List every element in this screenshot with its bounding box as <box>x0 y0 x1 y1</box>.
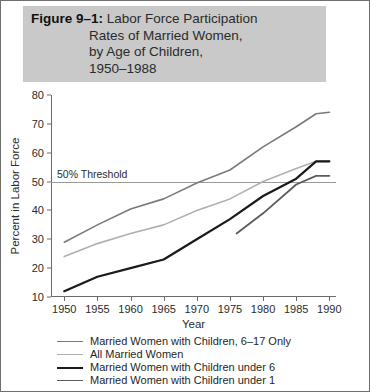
y-axis-label-text: Percent in Labor Force <box>9 138 21 255</box>
figure-title-line-4: 1950–1988 <box>31 61 318 78</box>
legend-color-swatch <box>57 380 83 381</box>
x-axis-label: Year <box>51 318 336 330</box>
x-tick-label: 1955 <box>85 303 109 315</box>
legend-label: All Married Women <box>90 348 183 361</box>
figure-title-line-2: Rates of Married Women, <box>31 28 318 45</box>
legend-item: Married Women with Children, 6–17 Only <box>57 335 357 348</box>
x-tick-mark <box>230 297 231 301</box>
x-tick-label: 1985 <box>284 303 308 315</box>
x-tick-label: 1950 <box>52 303 76 315</box>
x-tick-mark <box>296 297 297 301</box>
series-line <box>64 161 329 256</box>
figure-title-line-3: by Age of Children, <box>31 44 318 61</box>
x-tick-mark <box>329 297 330 301</box>
legend-item: All Married Women <box>57 348 357 361</box>
figure-title-line-1: Figure 9–1: Labor Force Participation <box>31 11 318 28</box>
figure-title-band: Figure 9–1: Labor Force Participation Ra… <box>23 6 326 82</box>
legend-label: Married Women with Children under 1 <box>90 374 275 387</box>
figure-number-label: Figure 9–1: <box>31 11 103 26</box>
x-tick-label: 1965 <box>151 303 175 315</box>
x-tick-mark <box>64 297 65 301</box>
plot-area: 1020304050607080 19501955196019651970197… <box>51 95 336 297</box>
series-line <box>64 112 329 242</box>
x-tick-mark <box>164 297 165 301</box>
legend-label: Married Women with Children under 6 <box>90 361 275 374</box>
x-tick-mark <box>197 297 198 301</box>
x-tick-mark <box>97 297 98 301</box>
figure-title-text-1: Labor Force Participation <box>107 11 258 26</box>
x-tick-label: 1975 <box>218 303 242 315</box>
x-tick-label: 1960 <box>118 303 142 315</box>
legend-item: Married Women with Children under 6 <box>57 361 357 374</box>
figure-container: Figure 9–1: Labor Force Participation Ra… <box>0 0 370 392</box>
legend-color-swatch <box>57 367 83 369</box>
legend-item: Married Women with Children under 1 <box>57 374 357 387</box>
series-lines <box>51 95 336 297</box>
series-line <box>64 161 329 291</box>
x-tick-mark <box>263 297 264 301</box>
y-axis-label: Percent in Labor Force <box>7 95 23 297</box>
legend-color-swatch <box>57 354 83 355</box>
legend-label: Married Women with Children, 6–17 Only <box>90 335 291 348</box>
x-tick-label: 1990 <box>317 303 341 315</box>
chart-legend: Married Women with Children, 6–17 OnlyAl… <box>57 335 357 387</box>
legend-color-swatch <box>57 341 83 342</box>
x-tick-mark <box>131 297 132 301</box>
x-tick-label: 1980 <box>251 303 275 315</box>
x-tick-label: 1970 <box>185 303 209 315</box>
